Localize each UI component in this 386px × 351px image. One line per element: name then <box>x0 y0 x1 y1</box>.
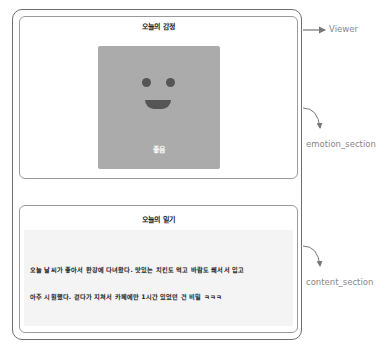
smile-mouth-icon <box>145 100 171 109</box>
content-section-annotation: content_section <box>306 277 373 287</box>
content-section-title: 오늘의 일기 <box>20 214 297 224</box>
right-eye-icon <box>166 78 175 87</box>
viewer: 오늘의 감정 좋음 오늘의 일기 오늘 날씨가 좋아서 한강에 다녀왔다. 맛있… <box>12 9 302 340</box>
emotion-section: 오늘의 감정 좋음 <box>19 16 298 179</box>
emotion-section-title: 오늘의 감정 <box>20 21 297 31</box>
content-section: 오늘의 일기 오늘 날씨가 좋아서 한강에 다녀왔다. 맛있는 치킨도 먹고 바… <box>19 205 298 333</box>
diary-line: 오늘 날씨가 좋아서 한강에 다녀왔다. 맛있는 치킨도 먹고 바람도 쐐서서 … <box>30 265 244 274</box>
left-eye-icon <box>142 78 151 87</box>
emotion-label: 좋음 <box>98 144 220 154</box>
viewer-annotation: Viewer <box>329 24 358 34</box>
diary-line: 아주 시원했다. 걷다가 지쳐서 카페에만 1시간 있었던 건 비밀 ㅋㅋㅋ <box>30 292 222 301</box>
diary-content: 오늘 날씨가 좋아서 한강에 다녀왔다. 맛있는 치킨도 먹고 바람도 쐐서서 … <box>24 230 293 326</box>
emotion-section-annotation: emotion_section <box>306 139 376 149</box>
emotion-image[interactable]: 좋음 <box>98 46 220 169</box>
